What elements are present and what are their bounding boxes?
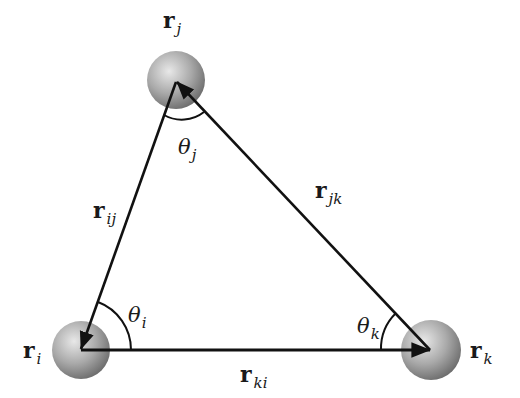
vector-label-jk: rjk bbox=[315, 177, 342, 208]
angle-arc-k bbox=[381, 313, 396, 350]
atom-j-sphere bbox=[147, 51, 205, 109]
angle-arc-j bbox=[164, 112, 204, 120]
vector-label-ij: rij bbox=[93, 197, 116, 228]
angle-label-theta-i: θi bbox=[128, 303, 147, 332]
triangle-diagram: rj ri rk rij rjk rki θj θi θk bbox=[0, 0, 520, 398]
angle-label-theta-j: θj bbox=[178, 135, 197, 164]
atom-label-j: rj bbox=[163, 7, 182, 38]
vector-label-ki: rki bbox=[240, 361, 268, 392]
vector-jk-arrow bbox=[177, 82, 430, 350]
atom-label-k: rk bbox=[470, 337, 493, 368]
atom-label-i: ri bbox=[23, 337, 42, 368]
angle-label-theta-k: θk bbox=[357, 314, 380, 343]
